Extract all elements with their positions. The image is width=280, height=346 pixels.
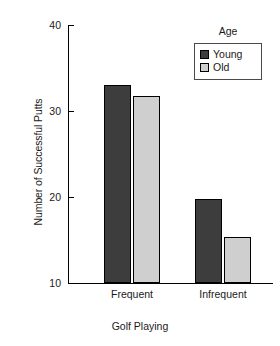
legend-label-old: Old [213, 62, 229, 73]
y-axis-tick-mark [69, 25, 74, 26]
legend-box: Young Old [194, 43, 262, 80]
bar-frequent-old [133, 96, 160, 283]
y-axis-line [68, 25, 69, 284]
bar-chart: Number of Successful Putts 10203040 Freq… [0, 0, 280, 346]
bar-infrequent-young [195, 199, 222, 283]
x-axis-title: Golf Playing [0, 320, 280, 332]
y-axis-tick-label: 10 [49, 277, 61, 289]
y-axis-tick-mark [69, 283, 74, 284]
x-axis-line [68, 283, 273, 284]
y-axis-tick-label: 30 [49, 105, 61, 117]
legend-entry-old: Old [200, 61, 256, 74]
y-axis-title: Number of Successful Putts [32, 62, 44, 262]
legend-label-young: Young [213, 49, 242, 60]
x-axis-label-infrequent: Infrequent [199, 288, 246, 300]
y-axis-tick-label: 40 [49, 19, 61, 31]
legend-swatch-young-icon [200, 50, 209, 59]
legend-swatch-old-icon [200, 63, 209, 72]
legend-entry-young: Young [200, 48, 256, 61]
legend-title: Age [194, 25, 262, 37]
y-axis-tick-label: 20 [49, 191, 61, 203]
y-axis-tick-mark [69, 111, 74, 112]
x-axis-label-frequent: Frequent [111, 288, 153, 300]
bar-frequent-young [104, 85, 131, 283]
y-axis-tick-mark [69, 197, 74, 198]
bar-infrequent-old [224, 237, 251, 283]
